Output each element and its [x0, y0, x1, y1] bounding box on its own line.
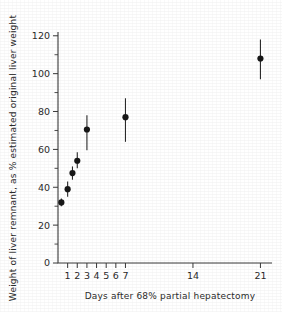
x-tick-label: 4 — [94, 270, 100, 281]
x-tick-label: 6 — [113, 270, 119, 281]
x-tick-label: 7 — [122, 270, 128, 281]
x-axis-title: Days after 68% partial hepatectomy — [85, 291, 256, 301]
x-tick-labels: 12345671421 — [65, 270, 267, 281]
data-point-group — [58, 199, 64, 207]
y-tick-label: 120 — [32, 30, 50, 41]
y-tick-label: 60 — [38, 144, 50, 155]
data-series — [58, 40, 263, 207]
data-point-marker — [74, 158, 80, 164]
data-point-marker — [69, 170, 75, 176]
tick-marks — [53, 36, 260, 268]
data-point-marker — [58, 199, 64, 205]
y-tick-label: 80 — [38, 106, 50, 117]
y-tick-label: 20 — [38, 220, 50, 231]
x-tick-label: 21 — [254, 270, 266, 281]
x-tick-label: 14 — [187, 270, 199, 281]
data-point-group — [122, 98, 128, 142]
scatter-plot: 020406080100120 12345671421 Days after 6… — [0, 0, 282, 312]
data-point-marker — [84, 126, 90, 132]
data-point-group — [257, 40, 263, 80]
y-tick-label: 100 — [32, 68, 50, 79]
data-point-group — [69, 166, 75, 179]
data-point-marker — [122, 114, 128, 120]
x-tick-label: 1 — [65, 270, 71, 281]
y-tick-labels: 020406080100120 — [32, 30, 50, 268]
y-axis-title: Weight of liver remnant, as % estimated … — [8, 15, 18, 302]
y-tick-label: 0 — [44, 257, 50, 268]
data-point-group — [74, 152, 80, 168]
data-point-group — [65, 182, 71, 197]
data-point-group — [84, 115, 90, 150]
x-tick-label: 3 — [84, 270, 90, 281]
chart-figure: 020406080100120 12345671421 Days after 6… — [0, 0, 282, 312]
data-point-marker — [257, 55, 263, 61]
axes — [58, 32, 272, 263]
y-tick-label: 40 — [38, 182, 50, 193]
x-tick-label: 5 — [103, 270, 109, 281]
data-point-marker — [65, 186, 71, 192]
x-tick-label: 2 — [74, 270, 80, 281]
